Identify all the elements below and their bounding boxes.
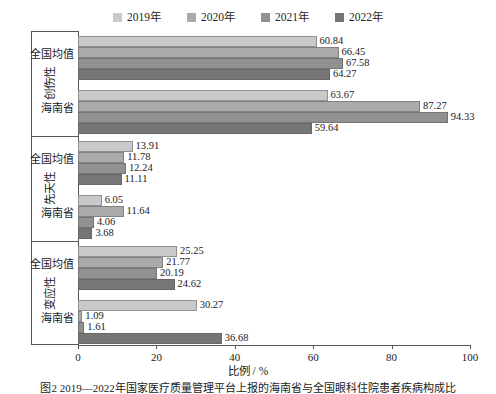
bar-value-0-1-2022: 59.64 bbox=[312, 122, 339, 134]
legend-item-2021[interactable]: 2021年 bbox=[261, 12, 309, 24]
bar-1-0-2022[interactable] bbox=[78, 174, 122, 185]
bar-2-0-2019[interactable] bbox=[78, 246, 177, 257]
bar-0-1-2019[interactable] bbox=[78, 90, 328, 101]
legend-swatch-2020 bbox=[187, 13, 196, 22]
bar-1-0-2020[interactable] bbox=[78, 152, 124, 163]
x-tick-label-0: 0 bbox=[58, 351, 98, 363]
x-tick-80 bbox=[392, 345, 393, 349]
bar-1-0-2021[interactable] bbox=[78, 163, 126, 174]
x-tick-label-40: 40 bbox=[215, 351, 255, 363]
bar-value-1-1-2022: 3.68 bbox=[92, 227, 113, 239]
subgroup-label-0-1: 海南省 bbox=[0, 103, 74, 114]
bar-value-2-1-2021: 1.61 bbox=[84, 321, 105, 333]
legend-swatch-2019 bbox=[113, 13, 122, 22]
subgroup-label-2-0: 全国均值 bbox=[0, 259, 74, 270]
x-tick-20 bbox=[156, 345, 157, 349]
bar-2-0-2022[interactable] bbox=[78, 279, 175, 290]
x-tick-40 bbox=[235, 345, 236, 349]
bar-1-1-2019[interactable] bbox=[78, 195, 102, 206]
bar-group-2: 全国均值 25.25 21.77 20.19 24.62 海南省 30 bbox=[78, 241, 470, 345]
x-tick-label-60: 60 bbox=[293, 351, 333, 363]
x-tick-100 bbox=[470, 345, 471, 349]
bar-0-0-2019[interactable] bbox=[78, 36, 317, 47]
bar-group-0: 全国均值 60.84 66.45 67.58 64.27 海南省 63 bbox=[78, 31, 470, 135]
subgroup-label-1-1: 海南省 bbox=[0, 208, 74, 219]
bar-0-1-2020[interactable] bbox=[78, 101, 420, 112]
legend-swatch-2022 bbox=[335, 13, 344, 22]
subgroup-label-1-0: 全国均值 bbox=[0, 154, 74, 165]
x-tick-label-20: 20 bbox=[136, 351, 176, 363]
x-axis-title: 比例 / % bbox=[0, 365, 496, 377]
bar-0-0-2020[interactable] bbox=[78, 47, 339, 58]
bar-value-1-1-2020: 11.64 bbox=[124, 205, 150, 217]
bar-value-0-1-2019: 63.67 bbox=[328, 89, 355, 101]
category-name-1: 先天性 bbox=[44, 136, 56, 240]
bar-0-1-2021[interactable] bbox=[78, 112, 448, 123]
bar-0-1-2022[interactable] bbox=[78, 123, 312, 134]
bar-2-0-2021[interactable] bbox=[78, 268, 157, 279]
bar-value-2-1-2022: 36.68 bbox=[222, 332, 249, 344]
bar-2-1-2022[interactable] bbox=[78, 333, 222, 344]
legend-label-2019: 2019年 bbox=[127, 12, 161, 24]
bar-group-1: 全国均值 13.91 11.78 12.24 11.11 海南省 6. bbox=[78, 136, 470, 240]
subgroup-label-0-0: 全国均值 bbox=[0, 49, 74, 60]
category-name-2: 变应性 bbox=[44, 241, 56, 345]
x-tick-60 bbox=[313, 345, 314, 349]
bar-value-0-1-2020: 87.27 bbox=[420, 100, 447, 112]
legend-item-2022[interactable]: 2022年 bbox=[335, 12, 383, 24]
figure-caption: 图2 2019—2022年国家医疗质量管理平台上报的海南省与全国眼科住院患者疾病… bbox=[0, 382, 496, 394]
bar-value-1-1-2019: 6.05 bbox=[102, 194, 123, 206]
bar-value-2-0-2022: 24.62 bbox=[175, 278, 202, 290]
legend-label-2020: 2020年 bbox=[201, 12, 235, 24]
legend-item-2020[interactable]: 2020年 bbox=[187, 12, 235, 24]
bar-2-0-2020[interactable] bbox=[78, 257, 163, 268]
bar-0-0-2021[interactable] bbox=[78, 58, 343, 69]
legend-label-2022: 2022年 bbox=[349, 12, 383, 24]
subgroup-label-2-1: 海南省 bbox=[0, 313, 74, 324]
bar-value-0-1-2021: 94.33 bbox=[448, 111, 475, 123]
chart-legend: 2019年 2020年 2021年 2022年 bbox=[0, 12, 496, 24]
bar-value-0-0-2022: 64.27 bbox=[330, 68, 357, 80]
bar-value-2-1-2019: 30.27 bbox=[197, 299, 224, 311]
legend-label-2021: 2021年 bbox=[275, 12, 309, 24]
bar-1-1-2022[interactable] bbox=[78, 228, 92, 239]
x-axis-line bbox=[78, 345, 470, 346]
x-tick-0 bbox=[78, 345, 79, 349]
category-name-0: 创伤性 bbox=[44, 31, 56, 135]
bar-0-0-2022[interactable] bbox=[78, 69, 330, 80]
x-tick-label-80: 80 bbox=[372, 351, 412, 363]
legend-swatch-2021 bbox=[261, 13, 270, 22]
bar-value-1-0-2022: 11.11 bbox=[122, 173, 148, 185]
legend-item-2019[interactable]: 2019年 bbox=[113, 12, 161, 24]
x-tick-label-100: 100 bbox=[450, 351, 490, 363]
